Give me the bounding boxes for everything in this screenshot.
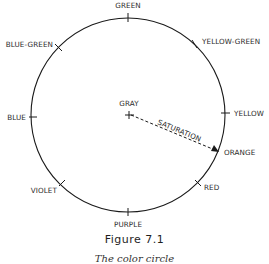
tick-yellow-green xyxy=(192,40,197,48)
arrow-head-icon xyxy=(211,145,219,152)
tick-violet xyxy=(59,180,65,186)
label-yellow: YELLOW xyxy=(233,109,264,118)
figure-title: Figure 7.1 xyxy=(0,233,269,246)
label-purple: PURPLE xyxy=(114,220,142,229)
label-green: GREEN xyxy=(115,1,141,10)
label-red: RED xyxy=(204,183,220,192)
figure-subtitle: The color circle xyxy=(0,253,269,264)
tick-red xyxy=(195,180,201,186)
label-orange: ORANGE xyxy=(224,148,256,157)
label-yellow-green: YELLOW-GREEN xyxy=(201,37,260,46)
label-gray: GRAY xyxy=(119,99,139,108)
gray-center-marker xyxy=(125,111,134,119)
color-circle-figure: GREEN YELLOW-GREEN YELLOW ORANGE RED PUR… xyxy=(0,0,269,264)
label-blue: BLUE xyxy=(7,113,26,122)
label-violet: VIOLET xyxy=(31,186,58,195)
label-saturation: SATURATION xyxy=(156,118,202,144)
color-circle-diagram: GREEN YELLOW-GREEN YELLOW ORANGE RED PUR… xyxy=(0,0,269,264)
label-blue-green: BLUE-GREEN xyxy=(6,40,53,49)
